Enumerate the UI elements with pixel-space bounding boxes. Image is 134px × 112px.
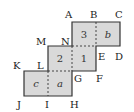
face-a: a xyxy=(57,78,63,89)
face-3: 3 xyxy=(81,29,87,40)
vertex-L: L xyxy=(37,60,44,71)
vertex-I: I xyxy=(45,99,49,110)
vertex-K: K xyxy=(13,60,21,71)
vertex-A: A xyxy=(64,9,73,20)
vertex-D: D xyxy=(115,51,123,62)
vertex-E: E xyxy=(98,51,105,62)
face-c: c xyxy=(33,78,39,89)
face-1: 1 xyxy=(81,53,87,64)
vertex-G: G xyxy=(74,73,82,84)
vertex-F: F xyxy=(96,73,103,84)
vertex-B: B xyxy=(90,9,97,20)
vertex-J: J xyxy=(16,99,21,110)
face-b: b xyxy=(105,29,111,40)
vertex-M: M xyxy=(36,36,46,47)
vertex-C: C xyxy=(115,9,123,20)
vertex-N: N xyxy=(61,36,70,47)
face-2: 2 xyxy=(57,53,63,64)
cube-net-diagram: 3 b 2 1 c a A B C D E F G H I J K L M N xyxy=(0,0,134,112)
vertex-H: H xyxy=(70,99,79,110)
